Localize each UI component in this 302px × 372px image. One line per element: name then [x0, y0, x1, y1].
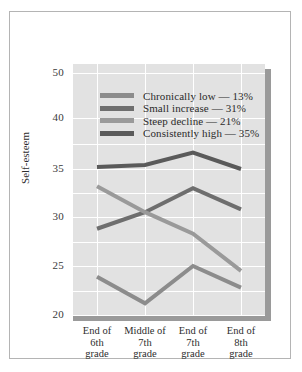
legend-label: Consistently high — 35% [143, 127, 259, 139]
x-tick-line: grade [211, 348, 271, 360]
legend-swatch [100, 106, 134, 111]
series-line-consistently-high [97, 153, 241, 169]
y-axis-title: Self-esteem [19, 98, 31, 218]
plot-shadow-right [265, 69, 271, 321]
legend-label: Steep decline — 21% [143, 115, 241, 127]
legend-item: Consistently high — 35% [100, 128, 259, 139]
series-line-chronically-low [97, 266, 241, 303]
x-tick-line: End of [211, 325, 271, 337]
chart-figure: 504035302520 End of6thgradeMiddle of7thg… [9, 11, 291, 359]
legend-item: Chronically low — 13% [100, 90, 259, 101]
legend-label: Chronically low — 13% [143, 90, 253, 102]
x-tick-label: End of8thgrade [211, 325, 271, 360]
y-tick-label: 25 [18, 259, 64, 271]
y-tick-label: 20 [18, 308, 64, 320]
legend-swatch [100, 118, 134, 123]
chart-legend: Chronically low — 13%Small increase — 31… [100, 90, 259, 140]
y-tick-label: 50 [18, 66, 64, 78]
legend-item: Steep decline — 21% [100, 115, 259, 126]
x-tick-line: 8th [211, 337, 271, 349]
legend-swatch [100, 93, 134, 98]
legend-item: Small increase — 31% [100, 103, 259, 114]
legend-label: Small increase — 31% [143, 102, 246, 114]
legend-swatch [100, 131, 134, 136]
